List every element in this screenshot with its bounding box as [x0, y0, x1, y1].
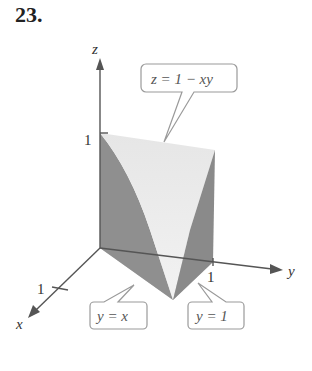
y-axis-label: y	[286, 263, 295, 279]
callout-y-eq-x: y = x	[90, 285, 147, 329]
solid-region-diagram: z y x 1 1 1 z = 1 − xy y = x y = 1	[0, 0, 312, 371]
callout-surface: z = 1 − xy	[141, 64, 237, 142]
callout-y-eq-1-text: y = 1	[194, 308, 228, 324]
z-tick-label: 1	[84, 132, 92, 148]
z-axis-label: z	[91, 41, 98, 57]
y-tick-label: 1	[207, 269, 215, 285]
x-axis-label: x	[15, 316, 23, 332]
callout-surface-text: z = 1 − xy	[150, 71, 213, 87]
callout-y-eq-1: y = 1	[188, 283, 244, 329]
x-tick-label: 1	[37, 281, 45, 297]
callout-y-eq-x-text: y = x	[95, 308, 128, 324]
